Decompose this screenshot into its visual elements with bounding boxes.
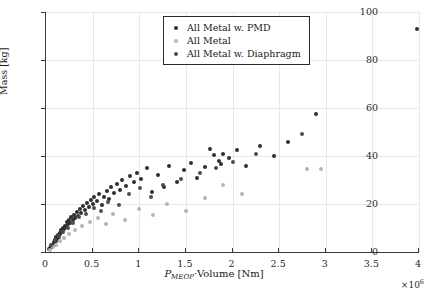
- data-point: [112, 191, 116, 195]
- data-point: [179, 177, 183, 181]
- data-point: [67, 232, 71, 236]
- gridline-vertical: [419, 12, 420, 252]
- data-point: [120, 178, 124, 182]
- data-point: [195, 176, 199, 180]
- y-axis-tick: [41, 156, 46, 157]
- data-point: [165, 202, 169, 206]
- legend-marker-icon: [174, 52, 178, 56]
- data-point: [198, 171, 202, 175]
- data-point: [92, 206, 96, 210]
- data-point: [124, 184, 128, 188]
- data-point: [115, 182, 119, 186]
- x-axis-tick: [232, 248, 233, 253]
- data-point: [123, 218, 127, 222]
- data-point: [149, 195, 153, 199]
- y-axis-tick-label: 80: [348, 55, 378, 65]
- data-point: [102, 195, 106, 199]
- data-point: [62, 236, 66, 240]
- data-point: [109, 185, 113, 189]
- data-point: [139, 177, 143, 181]
- y-axis-tick-label: 100: [348, 7, 378, 17]
- legend-item-label: All Metal w. Diaphragm: [187, 49, 301, 59]
- data-point: [182, 168, 186, 172]
- data-point: [77, 215, 81, 219]
- legend-item[interactable]: All Metal: [170, 34, 301, 47]
- data-point: [151, 213, 155, 217]
- data-point: [104, 222, 108, 226]
- data-point: [240, 192, 244, 196]
- y-axis-tick: [41, 204, 46, 205]
- data-point: [189, 161, 193, 165]
- data-point: [100, 203, 104, 207]
- x-axis-tick: [138, 248, 139, 253]
- y-axis-tick-label: 60: [348, 103, 378, 113]
- x-axis-exponent-base: ×10: [401, 280, 420, 290]
- data-point: [128, 174, 132, 178]
- data-point: [145, 166, 149, 170]
- legend-item[interactable]: All Metal w. Diaphragm: [170, 47, 301, 60]
- data-point: [286, 140, 290, 144]
- data-point: [254, 152, 258, 156]
- data-point: [214, 166, 218, 170]
- x-axis-tick: [278, 248, 279, 253]
- y-axis-tick: [41, 108, 46, 109]
- data-point: [105, 189, 109, 193]
- data-point: [84, 212, 88, 216]
- data-point: [244, 164, 248, 168]
- data-point: [231, 160, 235, 164]
- scatter-chart-figure: 02040608010000.511.522.533.54 Mass [kg] …: [0, 0, 428, 297]
- data-point: [167, 164, 171, 168]
- data-point: [203, 165, 207, 169]
- x-axis-tick: [325, 248, 326, 253]
- x-axis-exponent: ×106: [401, 278, 424, 290]
- data-point: [137, 207, 141, 211]
- x-axis-tick: [45, 248, 46, 253]
- data-point: [135, 171, 139, 175]
- y-axis-tick-label: 20: [348, 199, 378, 209]
- data-point: [66, 226, 70, 230]
- data-point: [258, 144, 262, 148]
- data-point: [161, 183, 165, 187]
- data-point: [118, 188, 122, 192]
- data-point: [127, 192, 131, 196]
- data-point: [203, 196, 207, 200]
- data-point: [95, 199, 99, 203]
- data-point: [111, 212, 115, 216]
- data-point: [219, 162, 223, 166]
- data-point: [156, 173, 160, 177]
- y-axis-title: Mass [kg]: [0, 48, 9, 95]
- data-point: [96, 216, 100, 220]
- data-point: [221, 183, 225, 187]
- data-point: [88, 220, 92, 224]
- data-point: [71, 221, 75, 225]
- data-point: [300, 132, 304, 136]
- x-axis-exponent-power: 6: [420, 278, 424, 286]
- y-axis-tick: [41, 60, 46, 61]
- data-point: [58, 239, 62, 243]
- data-point: [235, 148, 239, 152]
- x-axis-title-rest: ·Volume [Nm]: [194, 268, 264, 279]
- data-point: [227, 156, 231, 160]
- chart-legend: All Metal w. PMDAll MetalAll Metal w. Di…: [163, 16, 310, 65]
- legend-marker-icon: [174, 26, 178, 30]
- data-point: [117, 203, 121, 207]
- data-point: [61, 230, 65, 234]
- x-axis-tick: [92, 248, 93, 253]
- x-axis-tick: [418, 248, 419, 253]
- legend-item[interactable]: All Metal w. PMD: [170, 21, 301, 34]
- data-point: [415, 27, 419, 31]
- data-point: [221, 152, 225, 156]
- x-axis-title-subscript: MEOP: [171, 273, 194, 281]
- y-axis-tick-label: 0: [348, 247, 378, 257]
- y-axis-tick-label: 40: [348, 151, 378, 161]
- data-point: [272, 154, 276, 158]
- data-point: [99, 209, 103, 213]
- data-point: [87, 205, 91, 209]
- data-point: [97, 192, 101, 196]
- data-point: [150, 190, 154, 194]
- data-point: [319, 167, 323, 171]
- data-point: [305, 167, 309, 171]
- data-point: [73, 228, 77, 232]
- data-point: [184, 209, 188, 213]
- data-point: [175, 180, 179, 184]
